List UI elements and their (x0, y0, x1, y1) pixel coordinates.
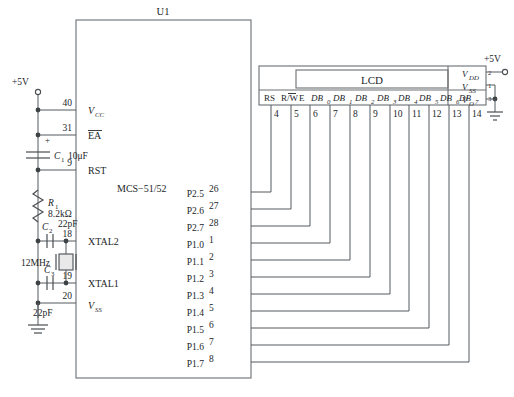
junction-crystal-bottom (64, 281, 69, 286)
mcu-port-label-p1-2: P1.2 (187, 274, 204, 284)
mcu-pin-number-18: 18 (63, 229, 73, 239)
lcd-pin-label-db0-sub: 0 (327, 98, 331, 105)
capacitor-c2-sub: 2 (49, 227, 53, 234)
mcu-ref-label: U1 (157, 6, 170, 17)
mcu-pin-number-1: 1 (209, 235, 214, 245)
mcu-pin-number-4: 4 (209, 286, 214, 296)
mcu-pin-label-ea: EA (88, 130, 102, 141)
mcu-pin-number-5: 5 (209, 303, 214, 313)
lcd-pin-label-db1: DB (332, 93, 345, 103)
mcu-port-label-p2-6: P2.6 (187, 206, 204, 216)
mcu-port-label-p1-1: P1.1 (187, 257, 204, 267)
mcu-pin-number-40: 40 (63, 98, 73, 108)
lcd-pin-label-db6: DB (439, 93, 452, 103)
resistor-r1-value: 8.2kΩ (48, 209, 72, 219)
lcd-pin-label-rw: R/W (281, 93, 299, 103)
mcu-pin-number-3: 3 (209, 269, 214, 279)
lcd-pin-label-db2-sub: 2 (371, 98, 375, 105)
mcu-port-label-p1-4: P1.4 (187, 308, 204, 318)
lcd-pin-number-13: 13 (452, 109, 462, 119)
resistor-r1-ref: R (47, 198, 54, 208)
lcd-pin-label-vss-sub: SS (469, 87, 476, 94)
lcd-pin-number-11: 11 (412, 109, 421, 119)
junction-xtal1-left (36, 281, 41, 286)
power-node-left-5v (35, 89, 40, 94)
junction-vcc (36, 108, 41, 113)
lcd-pin-number-4: 4 (274, 109, 279, 119)
power-label-left-5v: +5V (12, 77, 29, 87)
lcd-pin-label-db7-sub: 7 (475, 98, 479, 105)
mcu-pin-number-2: 2 (209, 252, 214, 262)
mcu-pin-number-6: 6 (209, 320, 214, 330)
mcu-port-label-p1-3: P1.3 (187, 291, 204, 301)
lcd-pin-number-6: 6 (313, 109, 318, 119)
lcd-title-label: LCD (361, 74, 383, 86)
lcd-pin-number-5: 5 (294, 109, 299, 119)
lcd-pin-number-14: 14 (472, 109, 482, 119)
mcu-port-label-p1-6: P1.6 (187, 342, 204, 352)
lcd-pin-label-db3: DB (376, 93, 389, 103)
capacitor-c3-sub: 3 (51, 270, 55, 277)
capacitor-c1-polarity: + (45, 135, 50, 145)
crystal-frequency-label: 12MHz (21, 258, 50, 268)
lcd-pin-number-10: 10 (393, 109, 403, 119)
lcd-pin-number-12: 12 (432, 109, 442, 119)
lcd-pin-label-vo-sub: O (469, 100, 474, 107)
capacitor-c2-ref: C (42, 222, 49, 232)
mcu-port-label-p2-7: P2.7 (187, 223, 204, 233)
capacitor-c2-value: 22pF (58, 219, 78, 229)
lcd-pin-label-rs: RS (264, 93, 275, 103)
lcd-pin-label-db4: DB (397, 93, 410, 103)
mcu-pin-label-rst: RST (88, 165, 106, 176)
mcu-pin-number-27: 27 (209, 201, 219, 211)
lcd-pin-label-db5-sub: 5 (435, 98, 439, 105)
lcd-pin-label-e: E (299, 93, 305, 103)
mcu-pin-label-xtal2: XTAL2 (88, 236, 119, 247)
mcu-part-label: MCS−51/52 (117, 183, 167, 194)
mcu-port-label-p1-0: P1.0 (187, 240, 204, 250)
mcu-pin-label-xtal1: XTAL1 (88, 278, 119, 289)
lcd-pin-label-db5: DB (418, 93, 431, 103)
junction-ea (36, 133, 41, 138)
junction-rst (36, 168, 41, 173)
mcu-pin-number-7: 7 (209, 337, 214, 347)
capacitor-c1-sub: 1 (61, 156, 64, 163)
junction-xtal2-left (36, 239, 41, 244)
schematic-canvas: U1 MCS−51/52 +5V 40 V CC 31 EA + C 1 10μ… (0, 0, 514, 397)
lcd-pin-label-db3-sub: 3 (392, 98, 397, 105)
lcd-pin-label-db1-sub: 1 (349, 98, 352, 105)
power-node-right-5v (502, 69, 507, 74)
junction-crystal-top (64, 239, 69, 244)
lcd-pin-label-vdd: V (462, 69, 469, 79)
crystal-body (59, 254, 73, 270)
capacitor-c3-value: 22pF (33, 308, 53, 318)
circuit-schematic: U1 MCS−51/52 +5V 40 V CC 31 EA + C 1 10μ… (0, 0, 514, 397)
mcu-pin-label-vss-sub: SS (95, 306, 102, 313)
mcu-pin-number-19: 19 (63, 271, 73, 281)
lcd-pin-number-9: 9 (373, 109, 378, 119)
mcu-body-u1 (76, 20, 251, 378)
lcd-pin-label-db2: DB (354, 93, 367, 103)
mcu-pin-number-28: 28 (209, 218, 219, 228)
mcu-pin-number-9: 9 (67, 158, 72, 168)
capacitor-c1-ref: C (54, 151, 61, 161)
lcd-pin-label-vdd-sub: DD (468, 74, 479, 81)
lcd-pin-number-7: 7 (333, 109, 338, 119)
lcd-pin-label-db0: DB (310, 93, 323, 103)
mcu-pin-label-vcc-sub: CC (95, 111, 105, 118)
mcu-port-label-p2-5: P2.5 (187, 189, 204, 199)
mcu-pin-number-26: 26 (209, 184, 219, 194)
power-label-right-5v: +5V (484, 54, 501, 64)
mcu-port-label-p1-5: P1.5 (187, 325, 204, 335)
lcd-pin-number-8: 8 (353, 109, 358, 119)
mcu-pin-number-8: 8 (209, 354, 214, 364)
mcu-port-label-p1-7: P1.7 (187, 359, 204, 369)
mcu-pin-number-31: 31 (63, 123, 73, 133)
lcd-pin-label-db4-sub: 4 (414, 98, 418, 105)
mcu-pin-number-20: 20 (63, 291, 73, 301)
